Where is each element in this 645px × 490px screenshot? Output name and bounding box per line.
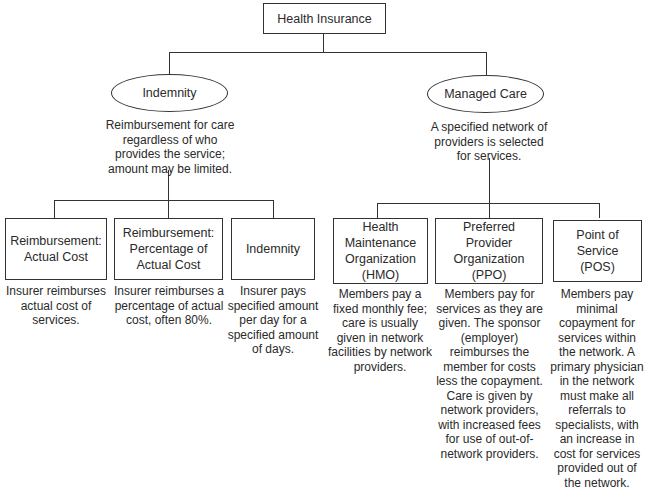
indemnity-child-description: Insurer pays specified amount per day fo… — [226, 284, 320, 357]
connector-indemnity-up — [169, 52, 170, 76]
node-pos: Point of Service (POS) — [553, 220, 642, 282]
node-indemnity-child: Indemnity — [231, 218, 315, 280]
reimbursement-percentage-description: Insurer reimburses a percentage of actua… — [112, 284, 226, 328]
ppo-description: Members pay for services as they are giv… — [434, 287, 545, 461]
node-reimbursement-percentage: Reimbursement: Percentage of Actual Cost — [114, 218, 223, 280]
node-indemnity: Indemnity — [111, 74, 228, 112]
ppo-label: Preferred Provider Organization (PPO) — [440, 219, 538, 283]
connector-child-2 — [168, 200, 169, 218]
node-hmo: Health Maintenance Organization (HMO) — [333, 218, 428, 284]
connector-child-1 — [54, 200, 55, 218]
managed-care-description: A specified network of providers is sele… — [428, 120, 550, 164]
hmo-label: Health Maintenance Organization (HMO) — [338, 219, 423, 283]
pos-description: Members pay minimal copayment for servic… — [549, 287, 645, 490]
node-ppo: Preferred Provider Organization (PPO) — [435, 218, 543, 284]
pos-label: Point of Service (POS) — [558, 227, 637, 275]
connector-managed-care-down — [489, 158, 490, 203]
reimbursement-percentage-label: Reimbursement: Percentage of Actual Cost — [119, 225, 218, 273]
reimbursement-actual-cost-label: Reimbursement: Actual Cost — [10, 233, 102, 265]
root-label: Health Insurance — [277, 11, 372, 27]
reimbursement-actual-cost-description: Insurer reimburses actual cost of servic… — [2, 284, 110, 328]
connector-child-3 — [273, 200, 274, 218]
connector-child-4 — [377, 203, 378, 218]
indemnity-child-label: Indemnity — [246, 241, 300, 257]
connector-root-down — [323, 33, 324, 52]
connector-child-5 — [489, 203, 490, 218]
connector-managed-care-up — [486, 52, 487, 76]
connector-root-horizontal — [169, 52, 487, 53]
managed-care-label: Managed Care — [444, 87, 527, 101]
root-node-health-insurance: Health Insurance — [263, 3, 386, 34]
node-managed-care: Managed Care — [427, 75, 544, 113]
indemnity-label: Indemnity — [142, 86, 196, 100]
connector-child-6 — [599, 203, 600, 218]
hmo-description: Members pay a fixed monthly fee; care is… — [326, 287, 434, 374]
node-reimbursement-actual-cost: Reimbursement: Actual Cost — [5, 218, 107, 280]
connector-indemnity-horizontal — [54, 200, 273, 201]
indemnity-description: Reimbursement for care regardless of who… — [100, 118, 240, 176]
